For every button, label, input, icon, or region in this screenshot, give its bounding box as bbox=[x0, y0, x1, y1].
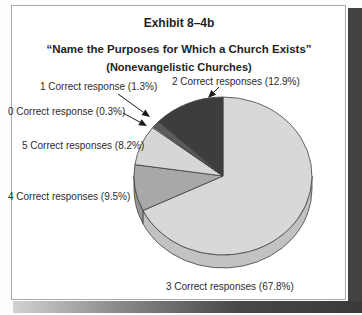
slice-label-0-correct: 0 Correct response (0.3%) bbox=[8, 106, 125, 117]
pie-chart bbox=[0, 0, 362, 315]
callout-line bbox=[123, 113, 140, 122]
slice-label-5-correct: 5 Correct responses (8.2%) bbox=[22, 140, 144, 151]
callout-arrowhead-icon bbox=[142, 110, 150, 117]
slice-label-2-correct: 2 Correct responses (12.9%) bbox=[172, 76, 300, 87]
slice-label-4-correct: 4 Correct responses (9.5%) bbox=[8, 191, 130, 202]
slice-label-1-correct: 1 Correct response (1.3%) bbox=[40, 81, 157, 92]
figure-scan: Exhibit 8–4b “Name the Purposes for Whic… bbox=[0, 0, 362, 315]
callout-arrowhead-icon bbox=[138, 119, 147, 126]
slice-label-3-correct: 3 Correct responses (67.8%) bbox=[166, 281, 294, 292]
callout-line bbox=[214, 87, 219, 92]
